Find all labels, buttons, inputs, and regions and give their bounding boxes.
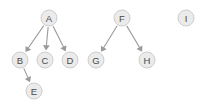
graph-node-c[interactable]: C bbox=[37, 52, 53, 68]
edge-line bbox=[46, 27, 48, 46]
node-circle[interactable] bbox=[62, 52, 78, 68]
node-circle[interactable] bbox=[114, 10, 130, 26]
arrowhead-icon bbox=[25, 46, 31, 52]
graph-node-g[interactable]: G bbox=[88, 52, 104, 68]
node-circle[interactable] bbox=[12, 52, 28, 68]
graph-node-d[interactable]: D bbox=[62, 52, 78, 68]
node-circle[interactable] bbox=[139, 52, 155, 68]
edge-a-to-d bbox=[53, 26, 66, 51]
node-circle[interactable] bbox=[26, 83, 42, 99]
graph-node-a[interactable]: A bbox=[41, 10, 57, 26]
node-circle[interactable] bbox=[41, 10, 57, 26]
edge-line bbox=[53, 26, 64, 48]
graph-canvas-svg: ABCDEFGHI bbox=[0, 0, 202, 110]
node-circle[interactable] bbox=[37, 52, 53, 68]
edge-line bbox=[127, 26, 140, 48]
edge-line bbox=[103, 26, 117, 49]
graph-node-f[interactable]: F bbox=[114, 10, 130, 26]
graph-node-b[interactable]: B bbox=[12, 52, 28, 68]
graph-node-h[interactable]: H bbox=[139, 52, 155, 68]
edge-a-to-c bbox=[43, 27, 50, 50]
node-circle[interactable] bbox=[178, 10, 194, 26]
edge-line bbox=[24, 68, 29, 78]
nodes-layer: ABCDEFGHI bbox=[12, 10, 194, 99]
edge-line bbox=[28, 26, 44, 49]
graph-node-e[interactable]: E bbox=[26, 83, 42, 99]
edge-a-to-b bbox=[25, 26, 43, 53]
edge-f-to-h bbox=[127, 26, 143, 52]
edge-f-to-g bbox=[101, 26, 117, 52]
graph-diagram: ABCDEFGHI bbox=[0, 0, 202, 110]
node-circle[interactable] bbox=[88, 52, 104, 68]
edge-b-to-e bbox=[24, 68, 31, 82]
graph-node-i[interactable]: I bbox=[178, 10, 194, 26]
arrowhead-icon bbox=[43, 45, 50, 50]
